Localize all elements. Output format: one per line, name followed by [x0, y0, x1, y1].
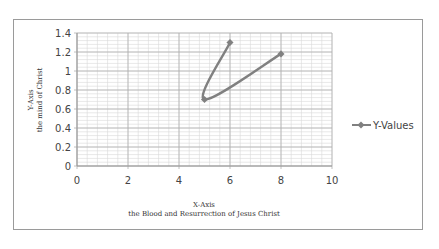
y-tick-label: 0.6	[55, 104, 71, 115]
y-tick-label: 0	[65, 161, 71, 172]
x-tick-label: 4	[176, 175, 182, 186]
x-tick-label: 10	[326, 175, 339, 186]
x-tick-label: 2	[125, 175, 131, 186]
y-tick-label: 0.2	[55, 142, 71, 153]
x-axis-ticks: 0246810	[74, 175, 339, 186]
x-axis-subtitle: the Blood and Resurrection of Jesus Chri…	[128, 210, 280, 218]
legend-marker-icon	[357, 121, 364, 128]
y-tick-label: 1.2	[55, 47, 71, 58]
x-tick-label: 8	[278, 175, 284, 186]
chart-svg: 0246810 00.20.40.60.811.21.4 X-Axis the …	[0, 0, 439, 249]
x-tick-label: 0	[74, 175, 80, 186]
y-axis-ticks: 00.20.40.60.811.21.4	[55, 28, 71, 172]
legend-label: Y-Values	[372, 120, 414, 131]
y-tick-label: 0.4	[55, 123, 71, 134]
legend: Y-Values	[352, 120, 414, 131]
y-tick-label: 0.8	[55, 85, 71, 96]
x-axis-title: X-Axis	[193, 201, 215, 209]
y-tick-label: 1.4	[55, 28, 71, 39]
y-axis-title: Y-Axis	[27, 89, 35, 111]
y-axis-subtitle: the mind of Christ	[36, 67, 44, 132]
y-tick-label: 1	[65, 66, 71, 77]
x-tick-label: 6	[227, 175, 233, 186]
